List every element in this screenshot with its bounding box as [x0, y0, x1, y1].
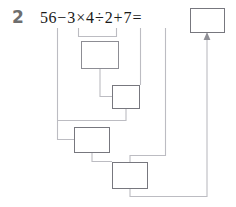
step-2-box[interactable] — [112, 85, 140, 109]
arrow-head-up — [204, 32, 211, 40]
worksheet-problem: 2 56−3×4÷2+7= — [0, 0, 236, 207]
step-4-box[interactable] — [112, 162, 148, 189]
bracket-multiply — [79, 28, 117, 37]
step-3-box[interactable] — [74, 127, 110, 153]
connector-step3-to-step4 — [92, 153, 112, 162]
step-1-box[interactable] — [81, 41, 119, 69]
connector-step1-to-step2 — [100, 69, 112, 97]
connector-step2-to-step3 — [58, 109, 127, 121]
connector-56-to-step3 — [58, 28, 75, 140]
final-answer-box[interactable] — [190, 8, 225, 33]
